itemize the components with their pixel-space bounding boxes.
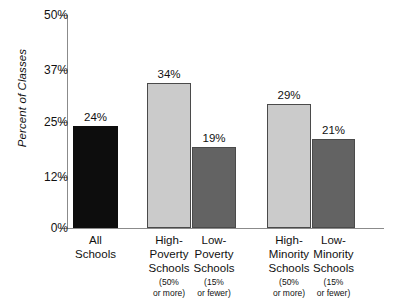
category-name: Low- Poverty Schools (194, 233, 235, 275)
category-name: High- Poverty Schools (149, 233, 190, 275)
x-axis-category-label: Low- Minority Schools(15% or fewer) (313, 233, 354, 299)
y-axis-tick-label: 50% (12, 8, 68, 22)
x-axis-category-label: High- Poverty Schools(50% or more) (149, 233, 190, 299)
x-axis-line (67, 228, 384, 229)
category-sublabel: (50% or more) (269, 277, 310, 299)
category-sublabel: (15% or fewer) (194, 277, 235, 299)
y-axis-tick-label: 37% (12, 63, 68, 77)
category-sublabel: (50% or more) (149, 277, 190, 299)
bar-value-label: 19% (202, 132, 225, 144)
bar-value-label: 29% (277, 89, 300, 101)
y-axis-tick-label: 0% (12, 221, 68, 235)
category-name: Low- Minority Schools (313, 233, 354, 275)
bar-value-label: 24% (84, 111, 107, 123)
bar (147, 83, 191, 228)
bar (312, 139, 355, 228)
category-name: High- Minority Schools (269, 233, 310, 275)
bar-value-label: 34% (157, 68, 180, 80)
y-axis-tick-label: 12% (12, 170, 68, 184)
bar (267, 104, 311, 228)
x-axis-category-label: High- Minority Schools(50% or more) (269, 233, 310, 299)
x-axis-category-label: Low- Poverty Schools(15% or fewer) (194, 233, 235, 299)
bar-value-label: 21% (322, 124, 345, 136)
category-sublabel: (15% or fewer) (313, 277, 354, 299)
bar (73, 126, 118, 228)
y-axis-tick-label: 25% (12, 115, 68, 129)
bar (192, 147, 236, 228)
y-axis-title: Percent of Classes (16, 28, 28, 168)
bar-chart: Percent of Classes 0%12%25%37%50% 24%34%… (0, 0, 394, 304)
x-axis-category-label: All Schools (75, 233, 116, 261)
category-name: All Schools (75, 233, 116, 261)
